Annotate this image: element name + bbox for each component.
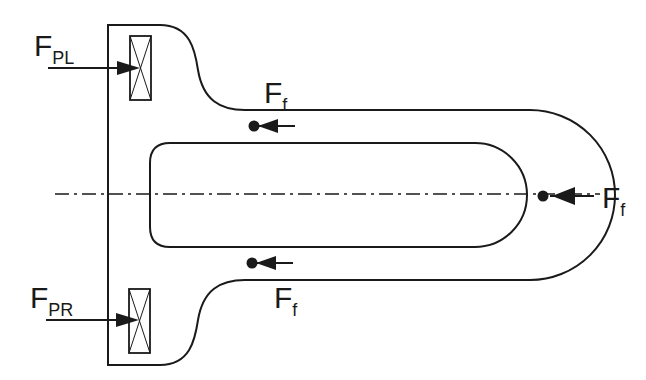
label-ff-bottom: Ff bbox=[274, 281, 298, 320]
force-diagram: FPL FPR Ff Ff Ff bbox=[0, 0, 646, 380]
friction-force-right-icon bbox=[538, 187, 595, 205]
label-fpl: FPL bbox=[34, 29, 74, 68]
inner-loop-outline bbox=[150, 143, 527, 247]
friction-force-bottom-icon bbox=[247, 256, 294, 270]
friction-force-top-icon bbox=[249, 119, 296, 133]
label-fpr: FPR bbox=[30, 281, 73, 320]
label-ff-right: Ff bbox=[602, 181, 626, 220]
